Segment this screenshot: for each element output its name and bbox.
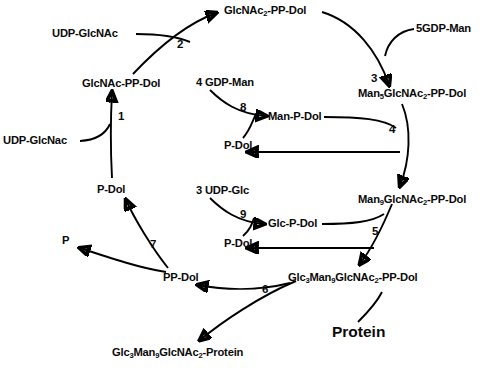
protein-man9-subscript: 9 — [155, 351, 159, 360]
arrow-step-4 — [400, 104, 409, 186]
node-glc3man9-glcnac2-pp-dol: Glc3Man9GlcNAc2-PP-Dol — [288, 272, 418, 283]
glcnac2c-subscript: 2 — [375, 276, 379, 285]
arrow-step-9 — [210, 198, 264, 224]
node-udp-glcnac-top: UDP-GlcNAc — [52, 28, 118, 39]
node-p-dol-mid-lower: P-Dol — [224, 238, 252, 249]
arrow-step-2 — [133, 13, 216, 74]
step-label-4: 4 — [389, 123, 395, 135]
step-label-2: 2 — [177, 38, 183, 50]
step-label-8: 8 — [240, 101, 246, 113]
node-glcnac2-pp-dol-subscript: 2 — [263, 9, 267, 18]
node-man-p-dol: Man-P-Dol — [268, 111, 322, 122]
node-p-dol-mid-upper: P-Dol — [224, 140, 252, 151]
arrow-step-7 — [126, 200, 168, 268]
protein-glcnac2-prefix: GlcNAc — [159, 346, 198, 358]
node-p-dol-left: P-Dol — [97, 184, 125, 195]
arrow-step-8 — [210, 90, 266, 116]
arrow-step-6-to-protein — [200, 281, 296, 340]
glc3man9-tail: -PP-Dol — [379, 271, 418, 283]
node-4-gdp-man: 4 GDP-Man — [196, 77, 254, 88]
man9b-prefix: Man — [309, 271, 331, 283]
protein-tail: -Protein — [203, 346, 244, 358]
arrow-step-1 — [111, 92, 112, 178]
node-3-udp-glc: 3 UDP-Glc — [196, 185, 249, 196]
node-pp-dol: PP-Dol — [163, 272, 198, 283]
man9-mid: GlcNAc — [384, 193, 423, 205]
node-udp-glcnac-bottom: UDP-GlcNac — [3, 135, 67, 146]
glc3-prefix: Glc — [288, 271, 305, 283]
step-label-5: 5 — [372, 225, 378, 237]
man9-subscript: 9 — [380, 198, 384, 207]
protein-man9-prefix: Man — [133, 346, 155, 358]
arrow-protein-in — [358, 292, 382, 322]
man9-tail: -PP-Dol — [427, 193, 466, 205]
protein-glcnac2-subscript: 2 — [199, 351, 203, 360]
node-glc3man9-glcnac2-protein: Glc3Man9GlcNAc2-Protein — [112, 347, 243, 358]
glcnac2c-prefix: GlcNAc — [335, 271, 374, 283]
node-protein: Protein — [332, 324, 385, 340]
arrow-man-p-dol-donate — [324, 117, 396, 128]
arrow-glc-p-dol-donate — [322, 214, 384, 224]
step-label-7: 7 — [150, 238, 156, 250]
node-man5-glcnac2-pp-dol: Man5GlcNAc2-PP-Dol — [358, 88, 466, 99]
arrow-step-3 — [322, 12, 389, 85]
node-glcnac2-pp-dol-tail: -PP-Dol — [267, 4, 306, 16]
pathway-diagram: UDP-GlcNAc GlcNAc2-PP-Dol 5GDP-Man GlcNA… — [0, 0, 487, 377]
node-5gdp-man: 5GDP-Man — [416, 23, 471, 34]
protein-glc3-subscript: 3 — [129, 351, 133, 360]
man5-subscript2: 2 — [423, 92, 427, 101]
node-glcnac-pp-dol: GlcNAc-PP-Dol — [82, 78, 160, 89]
arrow-step-6-to-ppdol — [198, 283, 290, 289]
node-man9-glcnac2-pp-dol: Man9GlcNAc2-PP-Dol — [358, 194, 466, 205]
man5-tail: -PP-Dol — [427, 87, 466, 99]
arrow-udp-glcnac-bottom — [80, 124, 110, 141]
man5-mid: GlcNAc — [384, 87, 423, 99]
arrow-p-release — [80, 248, 166, 272]
man5-prefix: Man — [358, 87, 380, 99]
man9b-subscript: 9 — [331, 276, 335, 285]
node-p-release: P — [62, 235, 69, 246]
arrow-5gdp-man — [385, 29, 414, 56]
step-label-6: 6 — [262, 283, 268, 295]
man9-subscript2: 2 — [423, 198, 427, 207]
node-glcnac2-pp-dol: GlcNAc2-PP-Dol — [224, 5, 306, 16]
man9-prefix: Man — [358, 193, 380, 205]
arrow-p-dol-into-8 — [243, 114, 256, 138]
glc3-subscript: 3 — [305, 276, 309, 285]
node-glcnac2-pp-dol-text: GlcNAc — [224, 4, 263, 16]
node-glc-p-dol: Glc-P-Dol — [268, 218, 317, 229]
step-label-1: 1 — [118, 110, 124, 122]
step-label-9: 9 — [240, 208, 246, 220]
step-label-3: 3 — [371, 72, 377, 84]
protein-glc3-prefix: Glc — [112, 346, 129, 358]
man5-subscript: 5 — [380, 92, 384, 101]
